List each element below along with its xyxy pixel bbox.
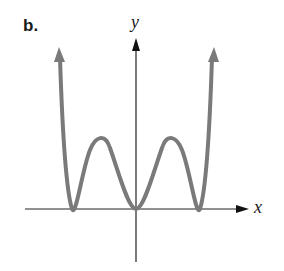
plot-area <box>0 0 284 271</box>
y-axis-arrow-icon <box>132 38 140 51</box>
right-arrow-icon <box>208 47 219 62</box>
y-axis <box>132 38 140 262</box>
left-arrow-icon <box>54 47 65 62</box>
x-axis-arrow-icon <box>236 205 249 213</box>
graph-figure: b. y x <box>0 0 284 271</box>
